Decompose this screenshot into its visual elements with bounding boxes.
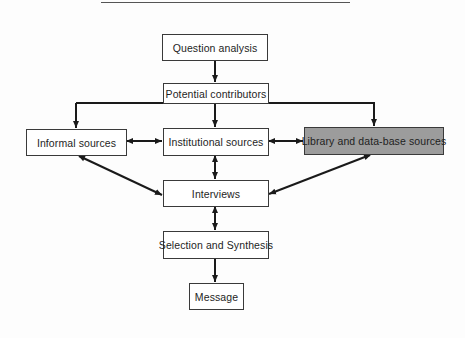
- node-library-database-sources: Library and data-base sources: [304, 127, 444, 155]
- node-message: Message: [189, 283, 244, 310]
- node-institutional-sources: Institutional sources: [163, 128, 269, 156]
- edge-library-interviews: [269, 155, 370, 194]
- node-selection-synthesis: Selection and Synthesis: [163, 231, 269, 259]
- node-informal-sources: Informal sources: [26, 129, 127, 156]
- node-potential-contributors: Potential contributors: [163, 83, 269, 104]
- edge-informal-interviews: [79, 156, 162, 195]
- node-interviews: Interviews: [163, 180, 269, 207]
- node-question-analysis: Question analysis: [162, 34, 268, 61]
- flowchart-canvas: Question analysis Potential contributors…: [0, 0, 465, 338]
